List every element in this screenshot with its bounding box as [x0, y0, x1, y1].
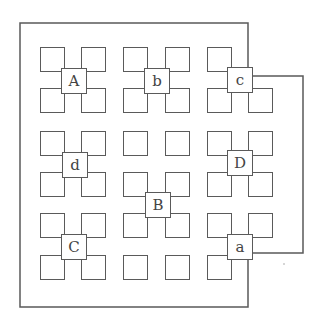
grid-square — [165, 255, 190, 280]
junction-label-B: B — [145, 192, 171, 218]
grid-square — [165, 131, 190, 156]
junction-label-a: a — [227, 234, 253, 260]
grid-square — [123, 255, 148, 280]
junction-label-d: d — [62, 152, 88, 178]
junction-label-A: A — [61, 68, 87, 94]
junction-label-D: D — [227, 150, 253, 176]
junction-label-b: b — [144, 68, 170, 94]
junction-label-c: c — [227, 67, 253, 93]
junction-label-C: C — [61, 234, 87, 260]
diagram-canvas: AbcdDBCa — [0, 0, 322, 328]
stray-dot — [283, 263, 285, 265]
grid-square — [123, 131, 148, 156]
